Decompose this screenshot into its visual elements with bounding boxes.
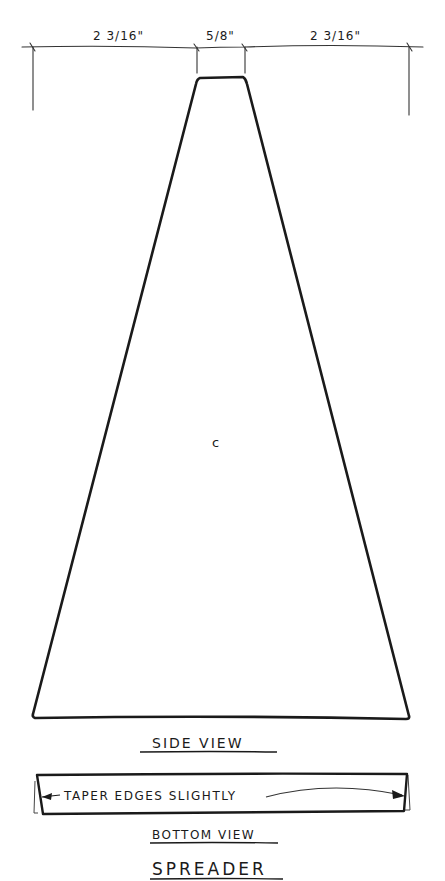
side-view-underline [140,752,277,753]
curved-arrow-icon [266,788,405,799]
bottom-view-caption: BOTTOM VIEW [152,828,255,842]
part-label-c: C [212,435,219,450]
dimension-line-group [22,43,423,115]
bottom-view-underline [150,843,278,844]
dimension-line [22,46,423,49]
drawing-title: SPREADER [152,859,267,879]
spreader-drawing: 2 3/16" 5/8" 2 3/16" C SIDE VIEW TAPER E… [0,0,445,881]
arrow-left-icon [42,793,60,800]
taper-note: TAPER EDGES SLIGHTLY [63,789,237,803]
side-view-caption: SIDE VIEW [152,735,244,751]
title-underline [150,879,283,880]
dimension-center-label: 5/8" [206,29,235,43]
bottom-view-edge-left [34,781,38,813]
dimension-left-label: 2 3/16" [93,29,144,43]
side-view-outline [33,77,409,719]
dimension-right-label: 2 3/16" [310,29,361,43]
